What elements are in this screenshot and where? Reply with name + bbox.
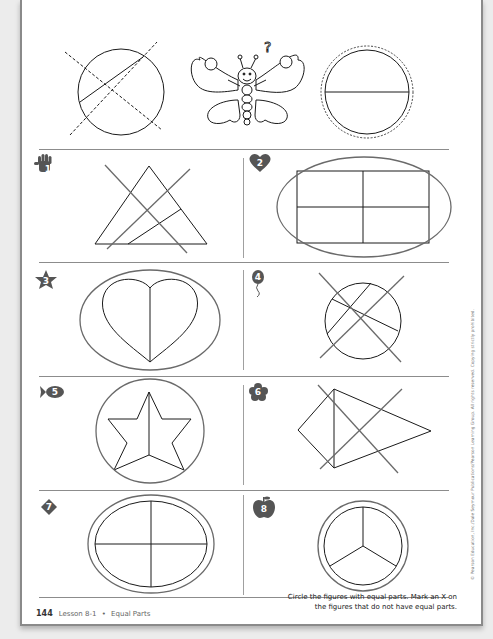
problem-number-6: 6: [247, 381, 269, 403]
example-circle-unequal: [65, 42, 164, 135]
page-number: 144: [36, 609, 53, 618]
figure-3-heart: [102, 279, 197, 362]
instructions-line-1: Circle the figures with equal parts. Mar…: [288, 592, 457, 602]
figure-6-kite: [298, 389, 431, 468]
problem-number-2: 2: [249, 152, 271, 174]
answer-mark-x-4: [319, 273, 404, 362]
problem-number-4: 4: [247, 266, 269, 288]
example-circle-equal: [321, 46, 413, 138]
problem-number-1: 1: [34, 155, 56, 177]
problem-number-3: 3: [35, 269, 57, 291]
footer-separator: •: [102, 610, 106, 618]
instructions: Circle the figures with equal parts. Mar…: [288, 592, 457, 612]
butterfly-mascot-icon: ?: [191, 39, 304, 125]
figure-1-triangle: [95, 166, 207, 244]
lesson-topic: Equal Parts: [111, 610, 150, 618]
problem-number-5: 5: [44, 381, 66, 403]
problem-number-8: 8: [253, 498, 275, 520]
svg-text:?: ?: [264, 39, 271, 55]
problem-number-7: 7: [38, 496, 60, 518]
figure-5-star: [108, 392, 191, 470]
answer-mark-x-1: [105, 165, 190, 253]
answer-mark-x-6: [318, 385, 402, 473]
lesson-label: Lesson 8-1: [59, 610, 97, 618]
figure-8-circle: [324, 507, 402, 585]
figures-artwork: ?: [0, 0, 493, 639]
instructions-line-2: the figures that do not have equal parts…: [288, 602, 457, 612]
copyright-notice: © Pearson Education, Inc./Dale Seymour P…: [470, 309, 475, 580]
figure-2-rectangle: [297, 171, 429, 243]
page-footer-left: 144Lesson 8-1 • Equal Parts: [36, 609, 150, 618]
figure-7-oval: [95, 501, 207, 587]
